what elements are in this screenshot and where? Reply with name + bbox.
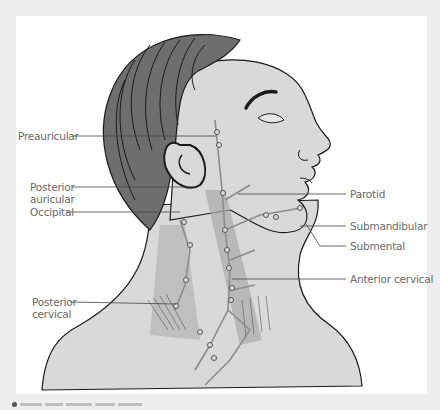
label-posterior-auricular: Posterior auricular [30, 181, 75, 205]
caption-bullet [12, 402, 17, 407]
label-line: cervical [32, 308, 77, 320]
label-preauricular: Preauricular [18, 130, 79, 142]
label-line: Posterior [32, 296, 77, 308]
caption-placeholder [20, 403, 42, 406]
label-occipital: Occipital [30, 206, 74, 218]
label-submandibular: Submandibular [350, 220, 427, 232]
caption-placeholder [66, 403, 92, 406]
label-anterior-cervical: Anterior cervical [350, 273, 433, 285]
caption-placeholder [95, 403, 115, 406]
neck-shoulders [42, 200, 362, 390]
label-posterior-cervical: Posterior cervical [32, 296, 77, 320]
figure-caption [12, 400, 142, 408]
caption-placeholder [118, 403, 142, 406]
label-line: Posterior [30, 181, 75, 193]
label-submental: Submental [350, 240, 405, 252]
caption-placeholder [45, 403, 63, 406]
label-parotid: Parotid [350, 188, 385, 200]
label-line: auricular [30, 193, 75, 205]
head-neck-illustration [0, 0, 440, 410]
